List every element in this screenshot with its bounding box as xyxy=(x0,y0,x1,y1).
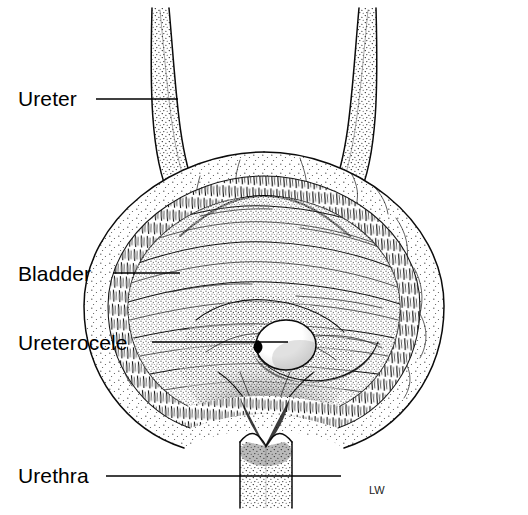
label-ureterocele: Ureterocele xyxy=(18,331,128,354)
anatomy-illustration: Ureter Bladder Ureterocele Urethra LW xyxy=(0,0,528,515)
label-urethra: Urethra xyxy=(18,464,89,487)
label-bladder: Bladder xyxy=(18,262,91,285)
anatomical-figure: Ureter Bladder Ureterocele Urethra LW xyxy=(0,0,528,515)
artist-signature: LW xyxy=(369,484,385,496)
label-ureter: Ureter xyxy=(18,87,77,110)
